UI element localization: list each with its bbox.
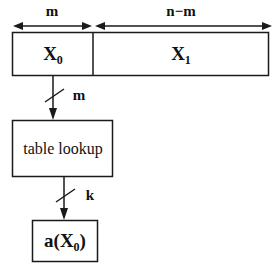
- register-field-x0: X0: [43, 44, 63, 67]
- dimension-label-right: n−m: [166, 4, 195, 19]
- register-field-x1-subscript: 1: [185, 53, 191, 67]
- dimension-arrow-left: [13, 22, 92, 30]
- table-lookup-label: table lookup: [23, 141, 103, 157]
- output-label-base: a(X: [44, 230, 74, 251]
- wire-table-to-output: [56, 177, 75, 220]
- output-label-tail: ): [80, 230, 86, 251]
- figure-canvas: m n−m X0 X1 m table lookup k a(X0): [0, 0, 280, 270]
- wire-width-label-k: k: [86, 188, 94, 203]
- register-field-x1-base: X: [171, 43, 185, 64]
- dimension-arrow-right: [95, 22, 272, 30]
- dimension-label-left: m: [46, 4, 59, 19]
- register-field-x0-base: X: [43, 43, 57, 64]
- register-field-x0-subscript: 0: [57, 53, 63, 67]
- diagram-vector-layer: [0, 0, 280, 270]
- register-field-x1: X1: [171, 44, 191, 67]
- wire-width-label-m: m: [73, 88, 86, 103]
- output-label: a(X0): [44, 231, 86, 254]
- wire-x0-to-table: [45, 76, 64, 120]
